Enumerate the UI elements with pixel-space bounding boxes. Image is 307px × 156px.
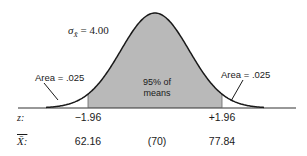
z-upper-tick: +1.96 bbox=[209, 112, 236, 123]
standard-error-label: σX̄ = 4.00 bbox=[68, 25, 109, 39]
right-area-pointer bbox=[231, 80, 243, 101]
xbar-row-label: X̄: bbox=[17, 136, 27, 147]
left-area-pointer bbox=[44, 83, 58, 100]
z-lower-tick: −1.96 bbox=[75, 112, 102, 123]
z-row-label: z: bbox=[17, 113, 24, 123]
xbar-upper-tick: 77.84 bbox=[209, 136, 235, 147]
sigma-value: = 4.00 bbox=[78, 24, 109, 36]
center-region-label-line2: means bbox=[143, 89, 170, 98]
right-tail-area-label: Area = .025 bbox=[221, 70, 270, 80]
xbar-lower-tick: 62.16 bbox=[75, 136, 101, 147]
xbar-mean-tick: (70) bbox=[148, 136, 167, 147]
left-tail-area-label: Area = .025 bbox=[35, 73, 84, 83]
normal-distribution-figure: σX̄ = 4.00 Area = .025 Area = .025 95% o… bbox=[0, 0, 307, 156]
center-region-label-line1: 95% of bbox=[143, 78, 171, 87]
